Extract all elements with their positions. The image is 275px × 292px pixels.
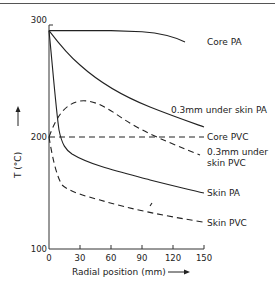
x-tick-label: 150 xyxy=(196,253,212,263)
label-skin-pvc: Skin PVC xyxy=(207,218,247,228)
x-tick-label: 60 xyxy=(106,253,117,263)
x-tick-label: 90 xyxy=(137,253,148,263)
label-skin-pa: Skin PA xyxy=(207,188,241,198)
x-axis-arrow xyxy=(168,270,190,275)
x-axis-title: Radial position (mm) xyxy=(72,267,166,277)
y-axis-title: T (°C) xyxy=(13,152,23,179)
label-under-skin-pvc-line1: 0.3mm under xyxy=(207,147,268,157)
label-under-skin-pa: 0.3mm under skin PA xyxy=(171,105,268,115)
curve-skin-pvc xyxy=(49,137,203,222)
stray-mark xyxy=(150,203,152,206)
label-core-pvc: Core PVC xyxy=(207,132,249,142)
y-axis-arrow xyxy=(16,106,21,126)
label-core-pa: Core PA xyxy=(207,37,243,47)
label-under-skin-pvc-line2: skin PVC xyxy=(207,158,246,168)
x-tick-label: 120 xyxy=(165,253,181,263)
curve-core-pa xyxy=(49,31,185,42)
y-tick-label: 300 xyxy=(31,15,47,25)
x-tick-label: 30 xyxy=(75,253,86,263)
chart-canvas: 300 200 100 0 30 60 90 120 150 Radial po… xyxy=(0,0,275,292)
y-tick-label: 200 xyxy=(31,132,47,142)
y-tick-label: 100 xyxy=(31,244,47,254)
x-tick-label: 0 xyxy=(46,253,51,263)
